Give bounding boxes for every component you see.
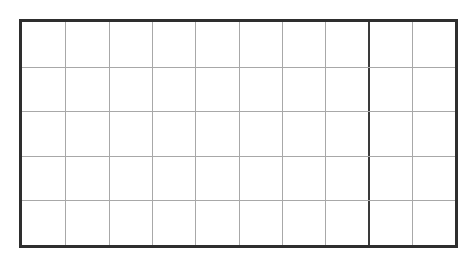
horizontal-grid-line [22, 67, 455, 68]
vertical-grid-line [65, 22, 66, 245]
grid-frame [19, 19, 458, 248]
vertical-grid-line [109, 22, 110, 245]
vertical-grid-line [412, 22, 413, 245]
vertical-grid-line [325, 22, 326, 245]
vertical-grid-line [239, 22, 240, 245]
vertical-grid-line [152, 22, 153, 245]
horizontal-grid-line [22, 200, 455, 201]
vertical-grid-line [282, 22, 283, 245]
horizontal-grid-line [22, 111, 455, 112]
heavy-vertical-line [368, 22, 370, 245]
vertical-grid-line [195, 22, 196, 245]
horizontal-grid-line [22, 156, 455, 157]
